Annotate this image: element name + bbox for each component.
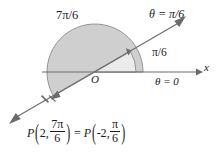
- origin-label: O: [91, 74, 99, 85]
- initial-ray-arrowhead-icon: [9, 113, 21, 124]
- equation-left-angle-fraction: 7π6: [50, 118, 65, 145]
- equation-left-angle-numerator: 7π: [50, 118, 65, 132]
- equation-point-symbol-left: P: [27, 126, 34, 140]
- equation-point-symbol-right: P: [84, 126, 91, 140]
- equation-comma-left: ,: [46, 126, 49, 140]
- equation-left-angle-denominator: 6: [50, 132, 65, 145]
- point-equation: P(2,7π6) = P(-2,π6): [27, 118, 126, 145]
- terminal-ray-angle-label: θ = π/6: [149, 8, 184, 20]
- equation-right-angle-denominator: 6: [110, 132, 119, 145]
- equation-open-paren-left: (: [35, 122, 39, 144]
- initial-ray-angle-label: θ = 0: [155, 76, 179, 87]
- equation-open-paren-right: (: [92, 122, 96, 144]
- equation-right-angle-numerator: π: [110, 118, 119, 132]
- outer-angle-label: 7π/6: [56, 9, 78, 22]
- equation-close-paren-right: ): [121, 122, 125, 144]
- x-axis-arrowhead-icon: [196, 69, 203, 76]
- polar-coordinate-figure: 7π/6 θ = π/6 π/6 θ = 0 O x P(2,7π6) = P(…: [0, 0, 217, 153]
- equation-equals-sign: =: [74, 126, 81, 140]
- equation-comma-right: ,: [107, 126, 110, 140]
- equation-close-paren-left: ): [66, 122, 70, 144]
- x-axis-label: x: [204, 62, 209, 73]
- equation-right-radius: -2: [97, 126, 107, 140]
- equation-right-angle-fraction: π6: [110, 118, 119, 145]
- inner-angle-label: π/6: [152, 47, 167, 59]
